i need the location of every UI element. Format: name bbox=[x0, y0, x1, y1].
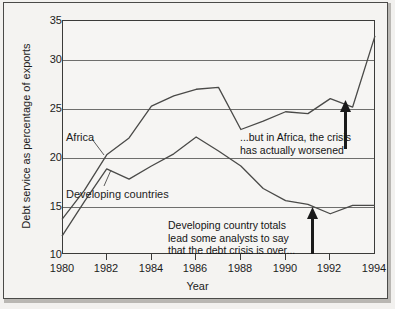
x-tick-1988: 1988 bbox=[228, 262, 252, 274]
y-tick-15: 15 bbox=[40, 201, 62, 212]
chart-figure: 35 30 25 20 15 10 1980 1982 1984 1986 19… bbox=[0, 0, 395, 309]
x-tick-1982: 1982 bbox=[94, 262, 118, 274]
x-tick-1984: 1984 bbox=[139, 262, 163, 274]
series-label-developing: Developing countries bbox=[66, 188, 169, 200]
x-tick-mark-1992 bbox=[329, 254, 330, 260]
y-tick-35: 35 bbox=[40, 15, 62, 26]
annotation-developing-line-1: Developing country totals bbox=[168, 219, 295, 232]
x-tick-1992: 1992 bbox=[317, 262, 341, 274]
y-axis: 35 30 25 20 15 10 bbox=[34, 20, 62, 254]
gridline-30 bbox=[63, 60, 374, 61]
annotation-developing-line-2: lead some analysts to say bbox=[168, 232, 295, 245]
x-tick-mark-1982 bbox=[106, 254, 107, 260]
x-tick-1986: 1986 bbox=[183, 262, 207, 274]
annotation-developing: Developing country totals lead some anal… bbox=[168, 219, 295, 257]
x-tick-mark-1984 bbox=[151, 254, 152, 260]
annotation-africa-line-1: ...but in Africa, the crisis bbox=[240, 131, 351, 144]
x-tick-1980: 1980 bbox=[50, 262, 74, 274]
y-tick-10: 10 bbox=[40, 249, 62, 260]
annotation-africa-line-2: has actually worsened bbox=[240, 144, 351, 157]
y-tick-30: 30 bbox=[40, 54, 62, 65]
y-tick-25: 25 bbox=[40, 103, 62, 114]
y-axis-title: Debt service as percentage of exports bbox=[20, 16, 32, 256]
gridline-15 bbox=[63, 207, 374, 208]
y-tick-20: 20 bbox=[40, 152, 62, 163]
gridline-25 bbox=[63, 109, 374, 110]
gridline-20 bbox=[63, 158, 374, 159]
annotation-africa: ...but in Africa, the crisis has actuall… bbox=[240, 131, 351, 156]
x-axis-title: Year bbox=[0, 280, 395, 292]
series-label-africa: Africa bbox=[66, 131, 94, 143]
x-tick-1990: 1990 bbox=[273, 262, 297, 274]
x-tick-1994: 1994 bbox=[362, 262, 386, 274]
annotation-developing-line-3: that the debt crisis is over... bbox=[168, 244, 295, 257]
